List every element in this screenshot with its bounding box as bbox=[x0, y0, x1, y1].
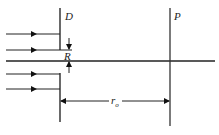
diagram-svg: D P R ro bbox=[0, 0, 219, 135]
label-plane-p: P bbox=[173, 10, 181, 22]
label-distance-r: ro bbox=[111, 94, 119, 109]
label-screen-d: D bbox=[64, 10, 73, 22]
diffraction-aperture-diagram: D P R ro bbox=[0, 0, 219, 135]
label-radius-r: R bbox=[63, 50, 71, 62]
